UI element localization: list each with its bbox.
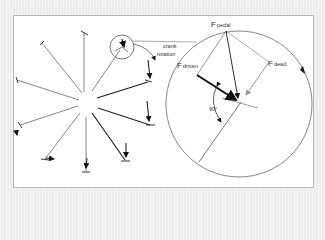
magnify-connector-top — [133, 41, 197, 42]
fpedal-label-sub: pedal — [217, 22, 230, 28]
tangent-line — [222, 98, 258, 108]
angle-label: 90° — [209, 106, 217, 112]
diagram-canvas: crank rotation 90° F pedal F driven F de… — [0, 0, 325, 199]
fdriven-label-main: F — [177, 61, 182, 70]
pedal-caps — [16, 31, 155, 172]
small-force-arrow — [122, 39, 124, 47]
crank-spokes-star — [17, 33, 150, 171]
spoke-bottom-right — [92, 113, 125, 160]
fpedal-label-main: F — [211, 20, 216, 29]
spoke-lower-left — [20, 106, 78, 125]
rotation-label: rotation — [157, 51, 175, 57]
fdriven-label-sub: driven — [183, 63, 198, 69]
fdead-label-sub: dead — [274, 61, 286, 67]
spoke-top-left — [42, 43, 82, 93]
fdriven-construction — [197, 31, 226, 75]
fdead-label-main: F — [268, 59, 273, 68]
spoke-left — [17, 80, 79, 100]
spoke-bottom-left — [45, 113, 80, 159]
crank-circle-large — [166, 31, 312, 177]
fdead-arrow — [246, 62, 269, 95]
rotation-direction-arrowhead — [300, 66, 305, 74]
crank-arm-line — [199, 102, 241, 162]
right-angle-arc — [213, 86, 221, 122]
spoke-upper-right-2 — [92, 50, 120, 91]
crank-rotation-arrow — [134, 44, 155, 60]
fpedal-arrow — [226, 31, 238, 98]
crank-label: crank — [163, 43, 177, 49]
spoke-right — [98, 108, 150, 125]
fdead-construction — [226, 31, 269, 62]
pedal-force-arrows — [16, 60, 150, 168]
spoke-upper-right — [97, 82, 148, 98]
